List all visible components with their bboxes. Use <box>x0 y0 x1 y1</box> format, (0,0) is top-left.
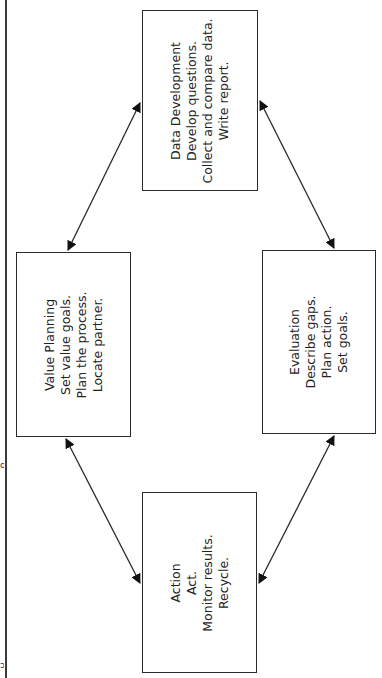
edge-value-planning-data-development <box>68 103 140 250</box>
edge-data-development-evaluation <box>260 101 334 248</box>
edge-action-value-planning <box>66 439 140 583</box>
connector-arrows <box>0 0 382 678</box>
edge-evaluation-action <box>259 436 334 583</box>
